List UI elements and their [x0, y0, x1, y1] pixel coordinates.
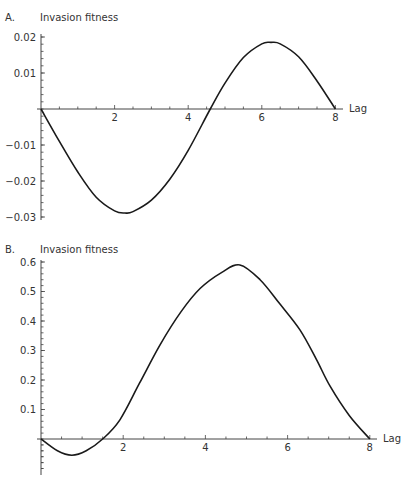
panel-b-letter: B. — [5, 244, 15, 255]
chart-b-ylabel: Invasion fitness — [40, 244, 118, 255]
y-tick-label: 0.1 — [20, 404, 36, 415]
y-tick-label: 0.01 — [14, 68, 36, 79]
y-tick-label: 0.2 — [20, 375, 36, 386]
chart-panel-b: B. Invasion fitness Lag 24680.60.50.40.3… — [0, 230, 409, 478]
chart-a-axes: 24680.020.01−0.01−0.02−0.03 — [5, 32, 343, 223]
x-tick-label: 6 — [284, 442, 290, 453]
chart-panel-a: A. Invasion fitness Lag 24680.020.01−0.0… — [0, 0, 409, 230]
chart-a-xlabel: Lag — [349, 103, 367, 114]
x-tick-label: 4 — [202, 442, 208, 453]
y-tick-label: 0.5 — [20, 286, 36, 297]
chart-a-line — [41, 42, 335, 213]
x-tick-label: 8 — [332, 112, 338, 123]
y-tick-label: −0.02 — [5, 176, 36, 187]
x-tick-label: 8 — [367, 442, 373, 453]
chart-a-canvas: A. Invasion fitness Lag 24680.020.01−0.0… — [0, 0, 409, 230]
chart-b-line — [41, 265, 370, 455]
panel-a-letter: A. — [5, 12, 15, 23]
y-tick-label: 0.02 — [14, 32, 36, 43]
chart-b-xlabel: Lag — [383, 433, 401, 444]
x-tick-label: 2 — [120, 442, 126, 453]
chart-a-ylabel: Invasion fitness — [40, 12, 118, 23]
x-tick-label: 2 — [111, 112, 117, 123]
x-tick-label: 6 — [259, 112, 265, 123]
y-tick-label: 0.4 — [20, 316, 36, 327]
y-tick-label: −0.01 — [5, 140, 36, 151]
x-tick-label: 4 — [185, 112, 191, 123]
y-tick-label: 0.3 — [20, 345, 36, 356]
y-tick-label: 0.6 — [20, 257, 36, 268]
y-tick-label: −0.03 — [5, 212, 36, 223]
chart-b-canvas: B. Invasion fitness Lag 24680.60.50.40.3… — [0, 230, 409, 478]
